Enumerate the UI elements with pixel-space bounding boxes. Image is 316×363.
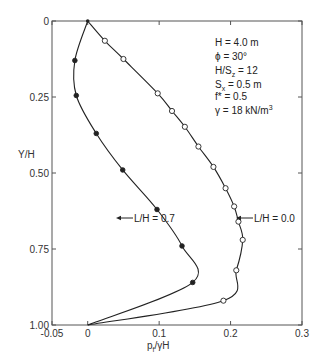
parameter-list: H = 4.0 m ϕ = 30° H/Sz = 12 Sx = 0.5 m f…: [215, 37, 273, 116]
x-tick-label: 0.1: [152, 328, 166, 339]
open-circle-marker: [196, 144, 201, 149]
y-axis-title: Y/H: [18, 149, 35, 160]
plot-area: [52, 21, 302, 325]
arrow-icon: [116, 216, 121, 220]
filled-circle-marker: [190, 280, 195, 285]
open-circle-marker: [182, 124, 187, 129]
y-tick-label: 0.75: [30, 244, 50, 255]
y-tick-label: 0.25: [30, 92, 50, 103]
filled-circle-marker: [155, 207, 160, 212]
open-circle-marker: [155, 91, 160, 96]
svg-text:L/H = 0.0: L/H = 0.0: [254, 213, 295, 224]
filled-circle-marker: [94, 131, 99, 136]
param-gamma: γ = 18 kN/m3: [215, 104, 273, 116]
axis-ticks: [52, 21, 302, 325]
y-tick-label: 0.50: [30, 168, 50, 179]
param-f-star: f* = 0.5: [215, 91, 247, 102]
x-tick-label: 0.3: [295, 328, 309, 339]
svg-text:L/H = 0.7: L/H = 0.7: [134, 213, 175, 224]
x-tick-labels: -0.0500.10.20.3: [41, 328, 310, 339]
x-axis-title: pf/γH: [147, 340, 170, 353]
filled-circle-marker: [120, 168, 125, 173]
y-tick-label: 0: [43, 16, 49, 27]
x-tick-label: 0: [85, 328, 91, 339]
y-tick-label: 1.00: [30, 320, 50, 331]
x-tick-label: 0.2: [224, 328, 238, 339]
open-circle-marker: [121, 56, 126, 61]
open-circle-marker: [223, 186, 228, 191]
param-height: H = 4.0 m: [215, 37, 259, 48]
chart: -0.0500.10.20.3 00.250.500.751.00 Y/H pf…: [0, 0, 316, 363]
annotation-lh-07: L/H = 0.7: [116, 213, 175, 224]
open-circle-marker: [211, 164, 216, 169]
open-circle-marker: [169, 108, 174, 113]
open-circle-marker: [234, 268, 239, 273]
open-circle-marker: [221, 298, 226, 303]
y-tick-labels: 00.250.500.751.00: [30, 16, 50, 331]
param-phi: ϕ = 30°: [215, 51, 247, 62]
open-circle-marker: [240, 237, 245, 242]
filled-circle-marker: [74, 93, 79, 98]
filled-circle-marker: [73, 58, 78, 63]
series-lh-0-7: [73, 21, 199, 325]
open-circle-marker: [232, 204, 237, 209]
open-circle-marker: [102, 38, 107, 43]
param-h-sz: H/Sz = 12: [215, 65, 258, 78]
filled-circle-marker: [180, 244, 185, 249]
annotation-lh-00: L/H = 0.0: [236, 213, 295, 224]
origin-marker: [86, 19, 90, 23]
